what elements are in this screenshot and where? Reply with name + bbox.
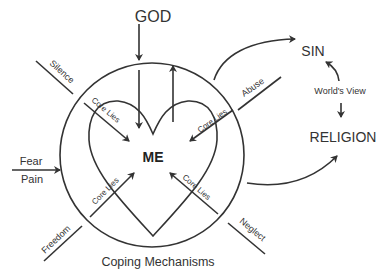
worlds-view-arrow-up xyxy=(326,62,339,81)
pain-label: Pain xyxy=(21,173,43,185)
silence-label: Silence xyxy=(48,58,77,85)
heart-shape xyxy=(89,101,217,236)
neglect-label: Neglect xyxy=(238,216,268,244)
core-lies-label-bottom-right: Core Lies xyxy=(181,173,213,202)
fear-label: Fear xyxy=(20,155,43,167)
worlds-view-label: World's View xyxy=(314,86,366,96)
religion-label: RELIGION xyxy=(310,129,377,145)
core-lies-label-top-right: Core Lies xyxy=(196,107,229,134)
god-label: GOD xyxy=(135,8,171,25)
arrow-to-sin xyxy=(214,39,295,80)
arrow-to-religion xyxy=(247,156,337,185)
abuse-label: Abuse xyxy=(239,76,266,99)
coping-mechanisms-label: Coping Mechanisms xyxy=(101,255,214,269)
coping-mechanisms-diagram: GOD ME Silence Abuse Freedom Neglect Fea… xyxy=(0,0,385,279)
sin-label: SIN xyxy=(301,43,324,59)
me-label: ME xyxy=(143,149,164,165)
core-lies-label-top-left: Core Lies xyxy=(90,96,122,125)
